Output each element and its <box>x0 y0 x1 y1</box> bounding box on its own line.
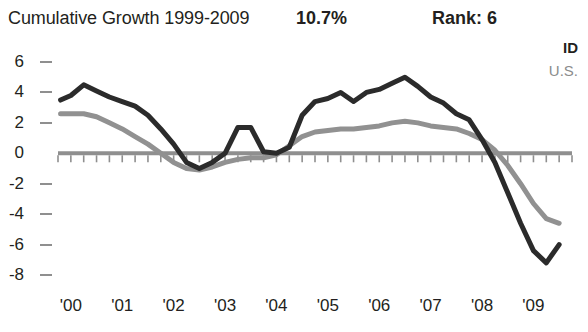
growth-value: 10.7% <box>296 8 347 29</box>
series-line-id <box>61 77 560 263</box>
x-tick-label: '02 <box>163 296 185 316</box>
plot-area <box>0 46 588 286</box>
x-axis: '00'01'02'03'04'05'06'07'08'09 <box>0 296 588 326</box>
x-tick-label: '08 <box>471 296 493 316</box>
x-tick-label: '04 <box>265 296 287 316</box>
page-title: Cumulative Growth 1999-2009 <box>8 8 249 29</box>
x-tick-label: '05 <box>317 296 339 316</box>
x-tick-label: '00 <box>60 296 82 316</box>
series-line-us <box>61 114 560 224</box>
x-tick-label: '06 <box>368 296 390 316</box>
x-tick-label: '01 <box>111 296 133 316</box>
chart-header: Cumulative Growth 1999-2009 10.7% Rank: … <box>0 0 588 34</box>
x-tick-label: '09 <box>522 296 544 316</box>
line-chart-svg <box>0 46 588 286</box>
x-tick-label: '03 <box>214 296 236 316</box>
x-tick-label: '07 <box>420 296 442 316</box>
rank-badge: Rank: 6 <box>432 8 497 29</box>
